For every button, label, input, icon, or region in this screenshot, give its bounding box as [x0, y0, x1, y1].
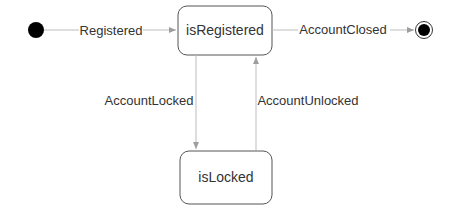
- state-is-registered: isRegistered: [178, 6, 272, 55]
- final-state-node: [416, 22, 433, 39]
- transition-account-closed: AccountClosed: [272, 21, 414, 39]
- transition-label-account-locked: AccountLocked: [105, 93, 194, 108]
- transition-account-locked: AccountLocked: [105, 55, 196, 149]
- state-diagram: Registered isRegistered AccountClosed Ac…: [0, 0, 451, 210]
- state-is-locked: isLocked: [180, 151, 272, 204]
- transition-label-account-closed: AccountClosed: [299, 22, 386, 37]
- transition-account-unlocked: AccountUnlocked: [256, 57, 359, 150]
- transition-registered: Registered: [44, 21, 176, 39]
- state-label-is-registered: isRegistered: [186, 22, 264, 38]
- state-label-is-locked: isLocked: [198, 169, 253, 185]
- initial-state-node: [28, 22, 44, 38]
- transition-label-registered: Registered: [80, 23, 143, 38]
- transition-label-account-unlocked: AccountUnlocked: [257, 93, 358, 108]
